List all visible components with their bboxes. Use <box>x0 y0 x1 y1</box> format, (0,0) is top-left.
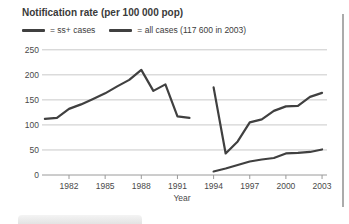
vertical-divider <box>342 14 344 207</box>
svg-text:1982: 1982 <box>60 181 79 191</box>
line-chart: 0501001502002501982198519881991199419972… <box>0 0 349 224</box>
notification-rate-chart-panel: Notification rate (per 100 000 pop) = ss… <box>0 0 349 224</box>
svg-text:1991: 1991 <box>168 181 187 191</box>
svg-text:Year: Year <box>173 193 190 203</box>
svg-text:250: 250 <box>25 45 39 55</box>
svg-text:100: 100 <box>25 120 39 130</box>
svg-text:1985: 1985 <box>96 181 115 191</box>
svg-text:50: 50 <box>30 145 40 155</box>
svg-text:2003: 2003 <box>313 181 332 191</box>
svg-text:150: 150 <box>25 95 39 105</box>
svg-text:1994: 1994 <box>204 181 223 191</box>
svg-text:200: 200 <box>25 70 39 80</box>
svg-text:1997: 1997 <box>240 181 259 191</box>
partially-visible-element <box>18 215 142 224</box>
svg-text:0: 0 <box>34 170 39 180</box>
svg-text:1988: 1988 <box>132 181 151 191</box>
svg-text:2000: 2000 <box>276 181 295 191</box>
